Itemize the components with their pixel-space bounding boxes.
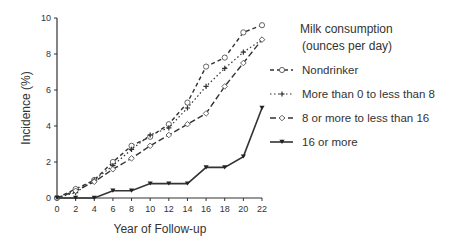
series-line	[57, 25, 262, 198]
circle-marker-icon	[222, 55, 227, 60]
plus-legend-icon	[279, 91, 284, 96]
x-tick-label: 20	[238, 204, 248, 214]
y-axis-label: Incidence (%)	[19, 71, 33, 144]
x-tick-label: 6	[110, 204, 115, 214]
series-line	[57, 40, 262, 198]
legend-entry: Nondrinker	[270, 64, 358, 76]
y-tick-label: 2	[46, 157, 51, 167]
series-line	[57, 108, 262, 198]
series-line	[57, 40, 262, 198]
x-tick-label: 16	[201, 204, 211, 214]
legend-title-line1: Milk consumption	[300, 22, 393, 36]
y-tick-label: 8	[46, 49, 51, 59]
x-tick-label: 8	[129, 204, 134, 214]
x-tick-label: 0	[54, 204, 59, 214]
series-group	[54, 23, 265, 201]
y-tick-label: 6	[46, 85, 51, 95]
plus-marker-icon	[185, 105, 190, 110]
circle-marker-icon	[203, 64, 208, 69]
circle-marker-icon	[259, 23, 264, 28]
triangle-marker-icon	[259, 106, 264, 110]
legend-label: 16 or more	[302, 136, 358, 148]
series-8-or-more-to-less-than-16	[54, 37, 265, 201]
legend-title-line2: (ounces per day)	[302, 39, 392, 53]
legend-label: More than 0 to less than 8	[302, 88, 435, 100]
y-tick-label: 4	[46, 121, 51, 131]
plus-marker-icon	[203, 84, 208, 89]
circle-marker-icon	[241, 30, 246, 35]
y-tick-label: 0	[46, 193, 51, 203]
y-tick-label: 10	[41, 13, 51, 23]
diamond-legend-icon	[279, 115, 285, 121]
diamond-marker-icon	[185, 121, 191, 127]
diamond-marker-icon	[129, 156, 135, 162]
x-tick-label: 12	[164, 204, 174, 214]
line-chart: 02468100246810121416182022 Incidence (%)…	[0, 0, 463, 246]
x-axis-label: Year of Follow-up	[114, 222, 207, 236]
series-nondrinker	[54, 23, 264, 201]
legend: Milk consumption (ounces per day) Nondri…	[270, 22, 435, 148]
x-tick-label: 14	[182, 204, 192, 214]
legend-label: 8 or more to less than 16	[302, 112, 429, 124]
diamond-marker-icon	[110, 166, 116, 172]
x-tick-label: 4	[92, 204, 97, 214]
diamond-marker-icon	[166, 132, 172, 138]
x-tick-label: 18	[220, 204, 230, 214]
legend-entry: 16 or more	[270, 136, 358, 148]
circle-legend-icon	[279, 67, 284, 72]
x-tick-label: 2	[73, 204, 78, 214]
legend-label: Nondrinker	[302, 64, 358, 76]
legend-entry: 8 or more to less than 16	[270, 112, 429, 124]
x-tick-label: 22	[257, 204, 267, 214]
series-more-than-0-to-less-than-8	[54, 37, 264, 201]
legend-entry: More than 0 to less than 8	[270, 88, 435, 100]
circle-marker-icon	[185, 100, 190, 105]
x-tick-label: 10	[145, 204, 155, 214]
